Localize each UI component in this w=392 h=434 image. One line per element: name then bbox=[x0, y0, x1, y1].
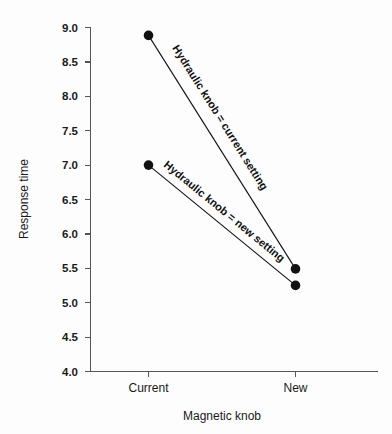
x-category-label-current: Current bbox=[128, 381, 169, 395]
x-axis-title: Magnetic knob bbox=[183, 409, 261, 423]
chart-canvas: 9.0 8.5 8.0 7.5 7.0 6.5 6.0 5.5 5.0 4.5 … bbox=[0, 0, 392, 434]
y-tick-label: 6.5 bbox=[62, 194, 79, 206]
y-tick-label: 8.0 bbox=[62, 90, 78, 102]
y-tick-label: 7.5 bbox=[62, 125, 79, 137]
data-point-current-setting-new bbox=[291, 264, 301, 274]
data-point-current-setting-current bbox=[144, 31, 154, 41]
y-tick-label: 7.0 bbox=[62, 159, 78, 171]
data-point-new-setting-current bbox=[144, 160, 154, 170]
y-tick-label: 5.0 bbox=[62, 297, 78, 309]
data-point-new-setting-new bbox=[291, 281, 301, 291]
y-tick-label: 6.0 bbox=[62, 228, 78, 240]
plot-background bbox=[0, 0, 392, 434]
y-tick-label: 8.5 bbox=[62, 56, 79, 68]
y-tick-label: 5.5 bbox=[62, 262, 79, 274]
interaction-plot: 9.0 8.5 8.0 7.5 7.0 6.5 6.0 5.5 5.0 4.5 … bbox=[0, 0, 392, 434]
x-category-label-new: New bbox=[283, 381, 307, 395]
y-tick-label: 4.0 bbox=[62, 366, 78, 378]
y-axis-title: Response time bbox=[17, 159, 31, 239]
y-tick-label: 4.5 bbox=[62, 331, 79, 343]
y-tick-label: 9.0 bbox=[62, 22, 78, 34]
